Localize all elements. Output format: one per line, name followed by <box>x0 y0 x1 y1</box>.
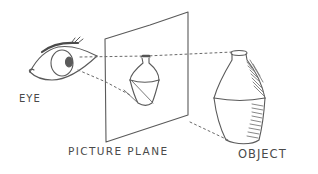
perspective-diagram: EYE PICTURE PLANE OBJECT <box>0 0 318 174</box>
eye-label: EYE <box>19 93 41 104</box>
picture-plane-label: PICTURE PLANE <box>68 145 168 157</box>
eye-icon <box>29 37 97 80</box>
object-label: OBJECT <box>238 147 287 161</box>
projected-vase <box>124 56 159 106</box>
sight-lines <box>78 52 233 140</box>
picture-plane <box>105 12 188 142</box>
